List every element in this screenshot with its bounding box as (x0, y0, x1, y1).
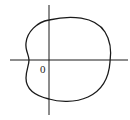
polar-curve-diagram (0, 0, 130, 120)
origin-label: 0 (40, 63, 46, 75)
limacon-curve (26, 17, 111, 101)
